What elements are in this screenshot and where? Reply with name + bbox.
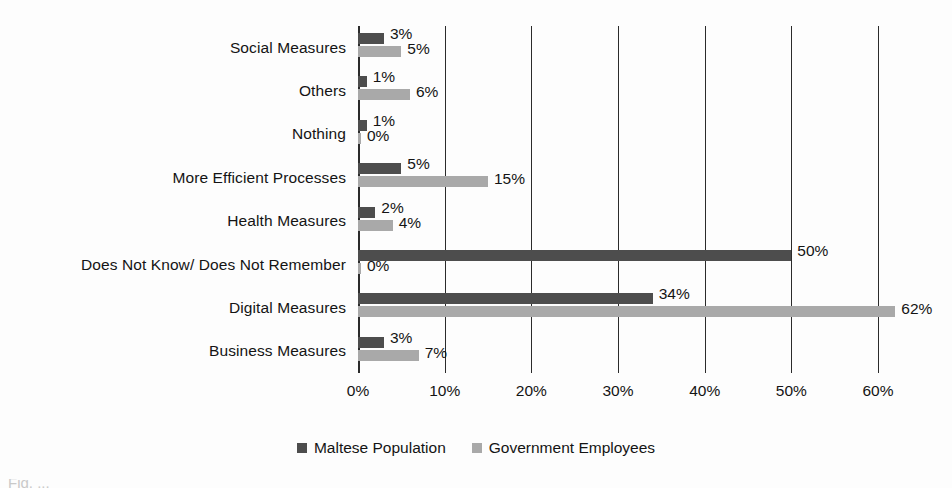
bar-light [358,176,488,187]
bar-value-label: 1% [373,68,395,86]
bar-light [358,350,419,361]
bar-group: Health Measures2%4% [358,200,952,243]
bar-value-label: 3% [390,329,412,347]
bar-light [358,89,410,100]
bar-chart: Social Measures3%5%Others1%6%Nothing1%0%… [0,0,952,488]
bar-light [358,306,895,317]
bar-value-label: 62% [901,300,932,318]
legend-label: Maltese Population [314,439,446,457]
category-label: More Efficient Processes [172,169,346,187]
bar-value-label: 0% [367,257,389,275]
x-tick-30: 30% [602,382,633,400]
bar-value-label: 4% [399,214,421,232]
bar-value-label: 50% [797,242,828,260]
bar-light [358,46,401,57]
bar-value-label: 5% [407,155,429,173]
bar-value-label: 0% [367,127,389,145]
bar-value-label: 15% [494,170,525,188]
bar-value-label: 6% [416,83,438,101]
figure-caption-text: Fig. ... [8,479,268,488]
figure-caption-cropped: Fig. ... [8,479,268,488]
x-tick-40: 40% [689,382,720,400]
x-tick-60: 60% [862,382,893,400]
category-label: Health Measures [227,212,346,230]
bar-dark [358,207,375,218]
bar-value-label: 5% [407,40,429,58]
bar-dark [358,293,653,304]
bar-group: Others1%6% [358,69,952,112]
bar-group: Business Measures3%7% [358,330,952,373]
bar-light [358,263,361,274]
category-label: Does Not Know/ Does Not Remember [81,256,346,274]
category-label: Nothing [292,125,346,143]
bar-dark [358,250,791,261]
category-label: Others [299,82,346,100]
bar-value-label: 7% [425,344,447,362]
bar-dark [358,163,401,174]
plot-area: Social Measures3%5%Others1%6%Nothing1%0%… [358,26,878,373]
bar-group: More Efficient Processes5%15% [358,156,952,199]
legend-swatch-icon [297,443,307,453]
legend-label: Government Employees [489,439,655,457]
bar-dark [358,76,367,87]
bar-group: Nothing1%0% [358,113,952,156]
bar-dark [358,337,384,348]
legend-item-2[interactable]: Government Employees [472,439,655,457]
legend-item-1[interactable]: Maltese Population [297,439,446,457]
bar-light [358,133,361,144]
x-tick-50: 50% [776,382,807,400]
category-label: Digital Measures [229,299,346,317]
x-axis-tick-labels: 0%10%20%30%40%50%60% [358,382,878,406]
legend-swatch-icon [472,443,482,453]
x-tick-0: 0% [347,382,369,400]
category-label: Social Measures [230,39,346,57]
bar-group: Social Measures3%5% [358,26,952,69]
bar-value-label: 34% [659,285,690,303]
x-tick-10: 10% [429,382,460,400]
bar-group: Does Not Know/ Does Not Remember50%0% [358,243,952,286]
bar-dark [358,120,367,131]
chart-legend: Maltese PopulationGovernment Employees [0,439,952,457]
bar-dark [358,33,384,44]
bar-group: Digital Measures34%62% [358,286,952,329]
bar-light [358,220,393,231]
x-tick-20: 20% [516,382,547,400]
category-label: Business Measures [209,342,346,360]
